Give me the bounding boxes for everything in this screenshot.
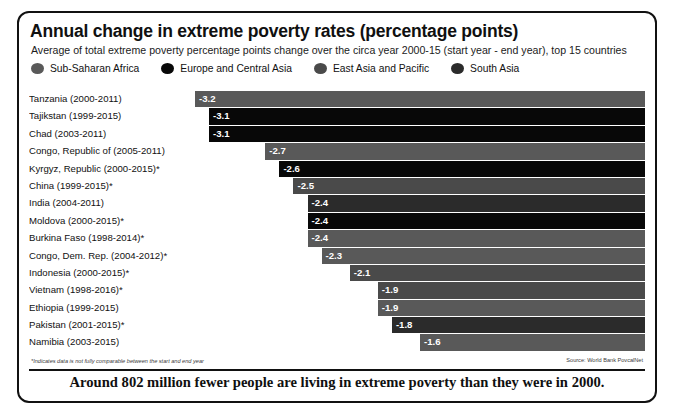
chart-row: Indonesia (2000-2015)*-2.1 — [29, 265, 645, 281]
chart-row: Tajikstan (1999-2015)-3.1 — [29, 108, 645, 124]
bar-track: -1.9 — [195, 300, 645, 316]
chart-bar: -2.7 — [265, 143, 645, 159]
bar-track: -1.8 — [195, 317, 645, 333]
chart-bar: -2.6 — [279, 161, 645, 177]
country-label: Tanzania (2000-2011) — [29, 91, 193, 107]
chart-row: Congo, Dem. Rep. (2004-2012)*-2.3 — [29, 248, 645, 264]
summary-banner: Around 802 million fewer people are livi… — [19, 374, 655, 391]
legend-item-label: South Asia — [470, 63, 519, 74]
bar-value-label: -2.4 — [312, 213, 329, 229]
chart-bar: -1.9 — [378, 300, 645, 316]
bar-track: -2.7 — [195, 143, 645, 159]
chart-bar: -1.9 — [378, 282, 645, 298]
chart-row: India (2004-2011)-2.4 — [29, 195, 645, 211]
bar-track: -1.9 — [195, 282, 645, 298]
country-label: Namibia (2003-2015) — [29, 334, 193, 350]
circle-swatch-icon — [314, 63, 327, 74]
chart-bar: -2.3 — [322, 248, 645, 264]
bar-value-label: -1.8 — [396, 317, 413, 333]
bar-chart-plot: Tanzania (2000-2011)-3.2Tajikstan (1999-… — [29, 91, 645, 353]
country-label: Moldova (2000-2015)* — [29, 213, 193, 229]
chart-row: Ethiopia (1999-2015)-1.9 — [29, 300, 645, 316]
bar-track: -2.1 — [195, 265, 645, 281]
bar-track: -3.1 — [195, 108, 645, 124]
bar-value-label: -2.1 — [354, 265, 371, 281]
legend-item-label: Europe and Central Asia — [180, 63, 292, 74]
bar-track: -1.6 — [195, 334, 645, 350]
chart-bar: -3.1 — [209, 108, 645, 124]
bar-value-label: -1.6 — [424, 334, 441, 350]
chart-row: Congo, Republic of (2005-2011)-2.7 — [29, 143, 645, 159]
bar-track: -2.3 — [195, 248, 645, 264]
circle-swatch-icon — [161, 63, 174, 74]
chart-bar: -2.4 — [308, 230, 646, 246]
legend-item: Sub-Saharan Africa — [31, 63, 139, 74]
bar-track: -3.2 — [195, 91, 645, 107]
chart-legend: Sub-Saharan AfricaEurope and Central Asi… — [31, 63, 541, 74]
country-label: Burkina Faso (1998-2014)* — [29, 230, 193, 246]
bar-track: -2.4 — [195, 230, 645, 246]
legend-item: East Asia and Pacific — [314, 63, 429, 74]
chart-row: Vietnam (1998-2016)*-1.9 — [29, 282, 645, 298]
banner-divider — [29, 369, 645, 371]
bar-track: -2.5 — [195, 178, 645, 194]
bar-value-label: -2.3 — [326, 248, 343, 264]
chart-bar: -1.6 — [420, 334, 645, 350]
chart-bar: -1.8 — [392, 317, 645, 333]
country-label: Indonesia (2000-2015)* — [29, 265, 193, 281]
chart-row: Tanzania (2000-2011)-3.2 — [29, 91, 645, 107]
country-label: Ethiopia (1999-2015) — [29, 300, 193, 316]
bar-track: -3.1 — [195, 126, 645, 142]
bar-value-label: -3.1 — [213, 126, 230, 142]
country-label: Congo, Republic of (2005-2011) — [29, 143, 193, 159]
country-label: India (2004-2011) — [29, 195, 193, 211]
chart-row: Pakistan (2001-2015)*-1.8 — [29, 317, 645, 333]
bar-track: -2.4 — [195, 195, 645, 211]
bar-value-label: -2.7 — [269, 143, 286, 159]
bar-value-label: -1.9 — [382, 282, 399, 298]
country-label: Tajikstan (1999-2015) — [29, 108, 193, 124]
chart-row: Moldova (2000-2015)*-2.4 — [29, 213, 645, 229]
chart-row: Namibia (2003-2015)-1.6 — [29, 334, 645, 350]
chart-row: Kyrgyz, Republic (2000-2015)*-2.6 — [29, 161, 645, 177]
chart-bar: -3.1 — [209, 126, 645, 142]
country-label: Chad (2003-2011) — [29, 126, 193, 142]
legend-item-label: East Asia and Pacific — [333, 63, 429, 74]
chart-row: China (1999-2015)*-2.5 — [29, 178, 645, 194]
legend-item: South Asia — [451, 63, 519, 74]
page-title: Annual change in extreme poverty rates (… — [30, 21, 518, 42]
chart-card: Annual change in extreme poverty rates (… — [17, 11, 657, 403]
bar-value-label: -2.5 — [297, 178, 314, 194]
chart-bar: -2.1 — [350, 265, 645, 281]
country-label: Kyrgyz, Republic (2000-2015)* — [29, 161, 193, 177]
circle-swatch-icon — [31, 63, 44, 74]
bar-value-label: -2.4 — [312, 230, 329, 246]
bar-track: -2.4 — [195, 213, 645, 229]
bar-value-label: -1.9 — [382, 300, 399, 316]
chart-bar: -2.4 — [308, 213, 646, 229]
legend-item-label: Sub-Saharan Africa — [50, 63, 139, 74]
chart-bar: -2.4 — [308, 195, 646, 211]
country-label: Pakistan (2001-2015)* — [29, 317, 193, 333]
legend-item: Europe and Central Asia — [161, 63, 292, 74]
chart-row: Burkina Faso (1998-2014)*-2.4 — [29, 230, 645, 246]
bar-value-label: -2.4 — [312, 195, 329, 211]
chart-subtitle: Average of total extreme poverty percent… — [31, 44, 627, 56]
bar-value-label: -2.6 — [283, 161, 300, 177]
chart-footnote: *Indicates data is not fully comparable … — [31, 358, 204, 364]
chart-source: Source: World Bank PovcalNet — [566, 357, 643, 363]
chart-bar: -2.5 — [293, 178, 645, 194]
bar-value-label: -3.1 — [213, 108, 230, 124]
bar-track: -2.6 — [195, 161, 645, 177]
bar-value-label: -3.2 — [199, 91, 216, 107]
country-label: Congo, Dem. Rep. (2004-2012)* — [29, 248, 193, 264]
chart-bar: -3.2 — [195, 91, 645, 107]
chart-row: Chad (2003-2011)-3.1 — [29, 126, 645, 142]
country-label: Vietnam (1998-2016)* — [29, 282, 193, 298]
circle-swatch-icon — [451, 63, 464, 74]
country-label: China (1999-2015)* — [29, 178, 193, 194]
